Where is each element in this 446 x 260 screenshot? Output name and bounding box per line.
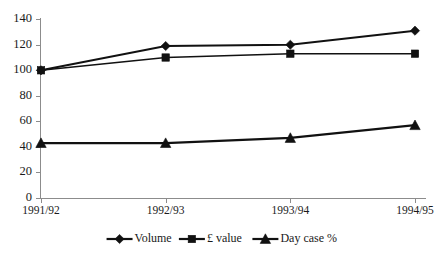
legend-item-volume: Volume	[107, 231, 172, 245]
series-markers	[36, 26, 420, 147]
marker-value-1991-92	[37, 67, 44, 74]
legend-marker-square-icon	[188, 235, 195, 242]
y-axis-ticks	[36, 20, 41, 199]
x-axis-ticks	[42, 199, 416, 204]
y-axis-tick-labels: 020406080100120140	[13, 11, 32, 204]
y-tick-label-60: 60	[20, 113, 33, 127]
y-tick-label-0: 0	[26, 190, 32, 204]
marker-volume-1993-94	[286, 40, 295, 49]
legend-label-volume: Volume	[135, 231, 172, 245]
chart-canvas: 020406080100120140 1991/921992/931993/94…	[0, 0, 446, 260]
marker-volume-1992-93	[161, 41, 170, 50]
legend-label-day-case: Day case %	[280, 231, 337, 245]
legend-label-value: £ value	[207, 231, 242, 245]
marker-volume-1994-95	[410, 26, 419, 35]
y-tick-label-20: 20	[20, 164, 33, 178]
y-tick-label-80: 80	[20, 88, 33, 102]
y-tick-label-100: 100	[13, 62, 32, 76]
marker-value-1993-94	[287, 50, 294, 57]
series-line-value	[41, 54, 415, 71]
chart-legend: Volume£ valueDay case %	[107, 231, 337, 245]
y-tick-label-140: 140	[13, 11, 32, 25]
legend-marker-diamond-icon	[115, 234, 124, 243]
x-tick-label-1991-92: 1991/92	[22, 204, 60, 216]
x-axis-tick-labels: 1991/921992/931993/941994/95	[22, 204, 434, 216]
x-tick-label-1993-94: 1993/94	[271, 204, 309, 216]
legend-item-value: £ value	[179, 231, 242, 245]
x-tick-label-1992-93: 1992/93	[147, 204, 185, 216]
marker-value-1994-95	[411, 50, 418, 57]
line-chart: 020406080100120140 1991/921992/931993/94…	[0, 0, 446, 260]
x-tick-label-1994-95: 1994/95	[396, 204, 434, 216]
legend-item-day-case: Day case %	[252, 231, 337, 245]
marker-value-1992-93	[162, 54, 169, 61]
series-lines	[41, 31, 415, 143]
y-tick-label-120: 120	[13, 37, 32, 51]
series-line-day-case	[41, 125, 415, 143]
y-tick-label-40: 40	[20, 139, 33, 153]
